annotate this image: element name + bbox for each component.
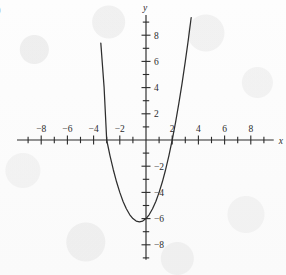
figure-canvas: ) −8−6−4−22468 8642−2−4−6−8 x y xyxy=(0,0,286,275)
x-tick-label: −4 xyxy=(89,124,99,134)
axes-group xyxy=(17,15,274,260)
x-tick-label: −2 xyxy=(115,124,125,134)
y-tick-label: −8 xyxy=(154,240,164,250)
y-tick-label: 6 xyxy=(154,57,159,67)
x-axis-tick-labels: −8−6−4−22468 xyxy=(36,124,253,134)
x-tick-label: −8 xyxy=(36,124,46,134)
x-tick-label: 4 xyxy=(196,124,201,134)
parabola-plot: −8−6−4−22468 8642−2−4−6−8 x y xyxy=(0,0,286,275)
x-axis-name-label: x xyxy=(278,136,284,146)
y-tick-label: 4 xyxy=(154,83,159,93)
x-tick-label: −6 xyxy=(62,124,72,134)
y-axis-name-label: y xyxy=(142,3,148,13)
x-tick-label: 8 xyxy=(248,124,253,134)
y-tick-label: −2 xyxy=(154,162,164,172)
x-tick-label: 6 xyxy=(222,124,227,134)
y-tick-label: 8 xyxy=(154,31,159,41)
y-tick-label: 2 xyxy=(154,109,159,119)
y-tick-label: −6 xyxy=(154,214,164,224)
